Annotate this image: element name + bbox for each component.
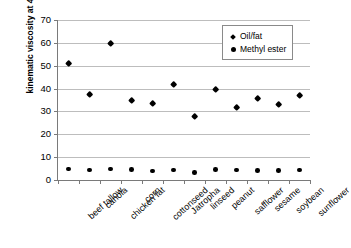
y-axis-tick: [54, 111, 58, 112]
data-point: [212, 86, 220, 94]
legend-item-methyl-ester: Methyl ester: [228, 42, 286, 55]
gridline: [58, 89, 310, 90]
data-point: [234, 168, 239, 173]
data-point: [87, 168, 92, 173]
chart-legend: Oil/fat Methyl ester: [222, 25, 293, 60]
y-axis-tick: [54, 157, 58, 158]
circle-marker-icon: [228, 44, 238, 54]
gridline: [58, 134, 310, 135]
x-axis-tick: [289, 180, 290, 184]
data-point: [66, 167, 71, 172]
y-axis-tick: [54, 89, 58, 90]
y-axis-tick-label: 10: [25, 152, 51, 162]
data-point: [191, 113, 199, 121]
x-axis-tick: [205, 180, 206, 184]
data-point: [108, 167, 113, 172]
x-axis-tick: [226, 180, 227, 184]
data-point: [213, 167, 218, 172]
x-axis-tick: [121, 180, 122, 184]
x-axis-tick: [58, 180, 59, 184]
legend-item-oil-fat: Oil/fat: [228, 29, 286, 42]
x-axis-tick: [247, 180, 248, 184]
data-point: [297, 168, 302, 173]
data-point: [192, 170, 197, 175]
data-point: [296, 92, 304, 100]
y-axis-tick: [54, 134, 58, 135]
diamond-marker-icon: [228, 31, 238, 41]
y-axis-tick: [54, 20, 58, 21]
x-axis-tick: [268, 180, 269, 184]
x-axis-tick: [184, 180, 185, 184]
data-point: [254, 95, 262, 103]
data-point: [129, 167, 134, 172]
x-axis-tick: [79, 180, 80, 184]
data-point: [255, 168, 260, 173]
data-point: [149, 100, 157, 108]
x-axis-tick: [163, 180, 164, 184]
y-axis-tick-label: 60: [25, 38, 51, 48]
y-axis-tick-label: 20: [25, 129, 51, 139]
y-axis-tick-label: 30: [25, 106, 51, 116]
y-axis-tick-label: 50: [25, 61, 51, 71]
legend-label-methyl-ester: Methyl ester: [240, 44, 286, 54]
gridline: [58, 66, 310, 67]
data-point: [171, 168, 176, 173]
data-point: [86, 90, 94, 98]
data-point: [150, 169, 155, 174]
y-axis-tick: [54, 43, 58, 44]
y-axis-tick: [54, 66, 58, 67]
data-point: [276, 168, 281, 173]
gridline: [58, 111, 310, 112]
x-axis-tick: [100, 180, 101, 184]
y-axis-tick-label: 0: [25, 175, 51, 185]
data-point: [128, 96, 136, 104]
gridline: [58, 157, 310, 158]
data-point: [275, 101, 283, 109]
data-point: [107, 40, 115, 48]
x-axis-tick: [142, 180, 143, 184]
x-axis-tick: [310, 180, 311, 184]
gridline: [58, 20, 310, 21]
legend-label-oil-fat: Oil/fat: [240, 31, 262, 41]
y-axis-tick-label: 40: [25, 84, 51, 94]
y-axis-tick-label: 70: [25, 15, 51, 25]
